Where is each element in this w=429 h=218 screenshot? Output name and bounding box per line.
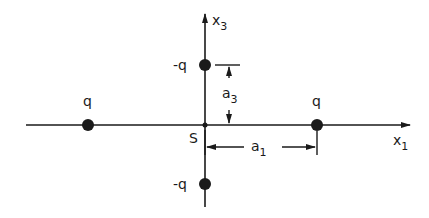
charge-right-q	[311, 119, 323, 131]
origin-label: S	[189, 130, 198, 146]
charge-top-neg-q	[199, 59, 211, 71]
charge-left-label: q	[83, 93, 92, 109]
x1-axis-label: x1	[393, 132, 408, 153]
charge-left-q	[82, 119, 94, 131]
charge-bottom-label: -q	[173, 176, 187, 192]
charge-right-label: q	[312, 93, 321, 109]
charge-top-label: -q	[173, 57, 187, 73]
charge-bottom-neg-q	[199, 178, 211, 190]
a1-label: a1	[251, 138, 267, 159]
origin-point	[203, 123, 208, 128]
a3-label: a3	[222, 85, 238, 106]
x3-axis-label: x3	[212, 12, 227, 33]
charge-diagram: x3 x1 S q q -q -q a3 a1	[0, 0, 429, 218]
